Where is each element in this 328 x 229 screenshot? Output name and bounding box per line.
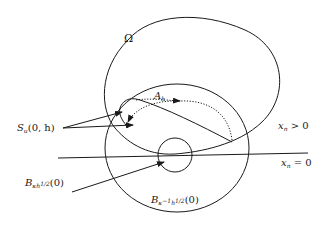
- small-ball-arrow: [72, 162, 164, 192]
- diagram: Ω Ah Su(0, h) Bκh1/2(0) Bκ−1h1/2(0) xn >…: [0, 0, 328, 229]
- large-ball-label: Bκ−1h1/2(0): [150, 194, 199, 206]
- section-label: Su(0, h): [17, 122, 55, 134]
- upper-half-label: xn > 0: [278, 120, 309, 132]
- dotted-arc-large: [180, 101, 232, 140]
- section-curve: [120, 99, 232, 142]
- large-ball-circle: [105, 84, 249, 212]
- dotted-arc-small: [128, 101, 180, 122]
- a-h-label: Ah: [153, 90, 165, 102]
- hyperplane-line: [58, 153, 308, 158]
- boundary-label: xn = 0: [281, 157, 312, 169]
- omega-label: Ω: [124, 32, 133, 45]
- small-ball-label: Bκh1/2(0): [24, 177, 64, 189]
